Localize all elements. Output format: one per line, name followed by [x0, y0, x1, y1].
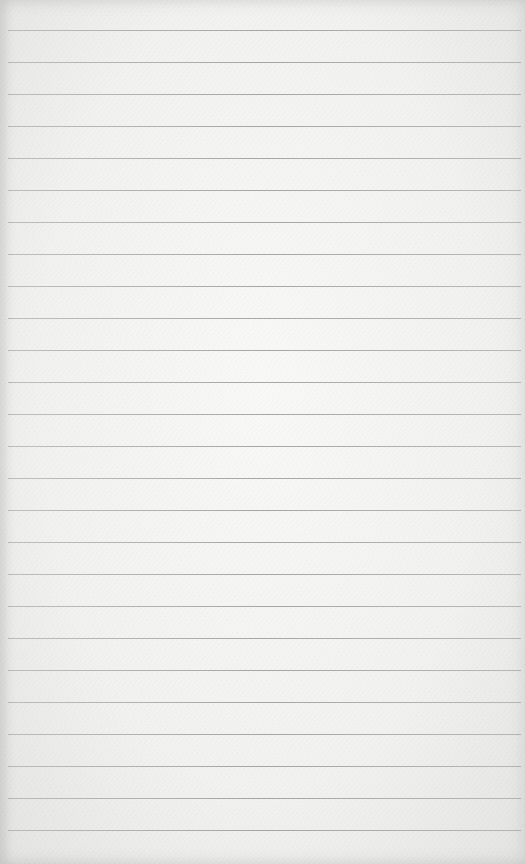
ruled-line [8, 126, 521, 127]
ruled-line [8, 798, 521, 799]
ruled-line [8, 606, 521, 607]
ruled-line [8, 542, 521, 543]
ruled-line [8, 350, 521, 351]
ruled-line [8, 222, 521, 223]
ruled-line [8, 254, 521, 255]
ruled-line [8, 670, 521, 671]
ruled-line [8, 286, 521, 287]
ruled-line [8, 478, 521, 479]
ruled-line [8, 734, 521, 735]
lined-paper [0, 0, 525, 864]
ruled-line [8, 510, 521, 511]
ruled-line [8, 830, 521, 831]
ruled-line [8, 414, 521, 415]
ruled-line [8, 446, 521, 447]
ruled-line [8, 766, 521, 767]
ruled-line [8, 318, 521, 319]
ruled-line [8, 62, 521, 63]
ruled-line [8, 94, 521, 95]
ruled-line [8, 702, 521, 703]
ruled-line [8, 382, 521, 383]
ruled-line [8, 638, 521, 639]
ruled-line [8, 190, 521, 191]
ruled-line [8, 574, 521, 575]
ruled-line [8, 158, 521, 159]
ruled-line [8, 30, 521, 31]
